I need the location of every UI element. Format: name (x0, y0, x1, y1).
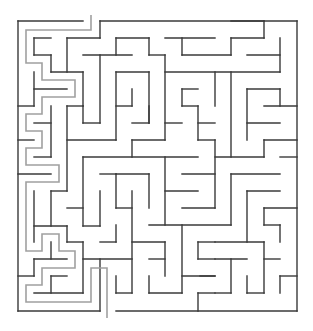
maze-canvas: Maze (0, 0, 313, 331)
maze-graphic (0, 0, 313, 331)
